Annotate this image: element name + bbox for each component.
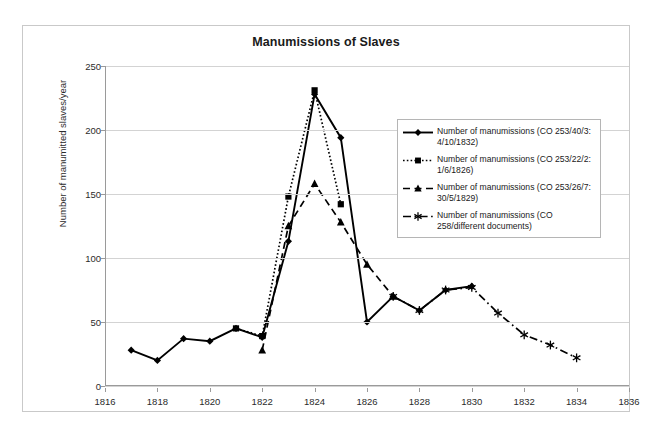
legend-item-3[interactable]: Number of manumissions (CO 253/26/7: 30/… <box>402 182 595 203</box>
x-axis-line <box>105 385 629 386</box>
data-point <box>312 87 318 93</box>
legend-label: Number of manumissions (CO 253/40/3: 4/1… <box>437 126 595 147</box>
data-point <box>206 338 213 345</box>
y-axis-line <box>105 66 106 386</box>
x-axis-tick-mark <box>262 388 263 392</box>
x-axis-tick-mark <box>210 388 211 392</box>
legend-item-1[interactable]: Number of manumissions (CO 253/40/3: 4/1… <box>402 126 595 147</box>
x-axis-tick-label: 1822 <box>242 396 282 407</box>
x-axis-tick-label: 1816 <box>85 396 125 407</box>
legend-label: Number of manumissions (CO 258/different… <box>437 210 595 231</box>
x-axis-tick-mark <box>524 388 525 392</box>
legend-label: Number of manumissions (CO 253/26/7: 30/… <box>437 182 595 203</box>
data-point <box>338 201 344 207</box>
data-point <box>547 341 555 350</box>
data-point <box>311 180 319 187</box>
legend-item-4[interactable]: Number of manumissions (CO 258/different… <box>402 210 595 231</box>
gridline <box>105 66 629 67</box>
x-axis-tick-label: 1824 <box>295 396 335 407</box>
chart-frame: Manumissions of Slaves 050100150200250 1… <box>22 25 630 412</box>
legend-item-2[interactable]: Number of manumissions (CO 253/22/2: 1/6… <box>402 154 595 175</box>
y-axis-tick-label: 200 <box>67 125 101 136</box>
y-axis-tick-label: 0 <box>67 381 101 392</box>
x-axis-tick-label: 1834 <box>557 396 597 407</box>
x-axis-tick-mark <box>629 388 630 392</box>
x-axis-tick-label: 1826 <box>347 396 387 407</box>
x-axis-tick-mark <box>367 388 368 392</box>
chart-legend: Number of manumissions (CO 253/40/3: 4/1… <box>397 119 601 238</box>
x-axis-tick-mark <box>105 388 106 392</box>
series-3 <box>258 180 397 354</box>
data-point <box>233 325 239 331</box>
x-axis-tick-label: 1832 <box>504 396 544 407</box>
x-axis-tick-label: 1830 <box>452 396 492 407</box>
data-point <box>128 347 135 354</box>
legend-label: Number of manumissions (CO 253/22/2: 1/6… <box>437 154 595 175</box>
legend-asterisk-icon <box>402 211 434 222</box>
data-point <box>285 238 292 245</box>
data-point <box>258 346 266 353</box>
y-axis-tick-label: 50 <box>67 317 101 328</box>
y-axis-tick-label: 150 <box>67 189 101 200</box>
x-axis-tick-label: 1836 <box>609 396 649 407</box>
data-point <box>573 353 581 362</box>
y-axis-title: Number of manumitted slaves/year <box>57 49 68 259</box>
series-line <box>236 90 341 336</box>
x-axis-tick-label: 1828 <box>399 396 439 407</box>
x-axis-tick-mark <box>157 388 158 392</box>
legend-diamond-icon <box>402 127 434 138</box>
chart-title: Manumissions of Slaves <box>23 35 629 49</box>
gridline <box>105 386 629 387</box>
x-axis-tick-label: 1820 <box>190 396 230 407</box>
x-axis-tick-label: 1818 <box>137 396 177 407</box>
legend-square-icon <box>402 155 434 166</box>
y-axis-tick-labels: 050100150200250 <box>63 66 101 386</box>
gridline <box>105 258 629 259</box>
x-axis-tick-labels: 1816181818201822182418261828183018321834… <box>105 388 629 410</box>
gridline <box>105 322 629 323</box>
x-axis-tick-mark <box>419 388 420 392</box>
x-axis-tick-mark <box>577 388 578 392</box>
y-axis-tick-label: 100 <box>67 253 101 264</box>
x-axis-tick-mark <box>315 388 316 392</box>
series-2 <box>233 87 344 339</box>
y-axis-tick-label: 250 <box>67 61 101 72</box>
x-axis-tick-mark <box>472 388 473 392</box>
legend-triangle-icon <box>402 183 434 194</box>
